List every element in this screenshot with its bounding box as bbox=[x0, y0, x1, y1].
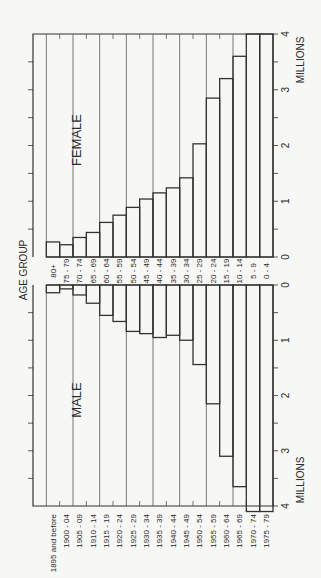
female-bar bbox=[193, 144, 206, 257]
birth-year-label: 1905 - 09 bbox=[75, 513, 84, 547]
age-group-label: 70 - 74 bbox=[75, 258, 84, 283]
male-bar bbox=[220, 285, 233, 456]
male-panel bbox=[28, 285, 278, 512]
birth-year-label: 1900 - 04 bbox=[62, 513, 71, 547]
birth-year-label: 1960 - 64 bbox=[222, 513, 231, 547]
labels-layer: 001122334480+1895 and before75 - 791900 … bbox=[18, 31, 306, 573]
birth-year-label: 1965 - 69 bbox=[235, 513, 244, 547]
female-value-tick-label: 0 bbox=[280, 254, 291, 260]
female-bar bbox=[220, 79, 233, 257]
female-bar bbox=[180, 178, 193, 257]
male-value-tick-label: 0 bbox=[280, 282, 291, 288]
birth-year-label: 1895 and before bbox=[49, 513, 58, 572]
female-bar bbox=[46, 242, 59, 257]
age-group-axis-title: AGE GROUP bbox=[18, 239, 29, 300]
age-group-label: 15 - 19 bbox=[222, 258, 231, 283]
age-group-label: 80+ bbox=[49, 264, 58, 278]
birth-year-label: 1915 - 19 bbox=[102, 513, 111, 547]
male-value-tick-label: 1 bbox=[280, 337, 291, 343]
birth-year-label: 1975 - 79 bbox=[262, 513, 271, 547]
birth-year-label: 1920 - 24 bbox=[115, 513, 124, 547]
male-bar bbox=[60, 285, 73, 289]
female-bar bbox=[233, 56, 246, 257]
male-bar bbox=[153, 285, 166, 337]
male-bar bbox=[126, 285, 139, 331]
male-bar bbox=[193, 285, 206, 365]
age-group-label: 75 - 79 bbox=[62, 258, 71, 283]
birth-year-label: 1910 - 14 bbox=[89, 513, 98, 547]
female-value-tick-label: 1 bbox=[280, 198, 291, 204]
female-panel bbox=[28, 34, 278, 257]
female-value-tick-label: 3 bbox=[280, 87, 291, 93]
male-bar bbox=[206, 285, 219, 404]
female-bar bbox=[100, 222, 113, 257]
female-bar bbox=[206, 98, 219, 257]
male-bar bbox=[180, 285, 193, 340]
age-group-label: 0 - 4 bbox=[262, 262, 271, 279]
female-bar bbox=[73, 237, 86, 257]
female-bar bbox=[126, 207, 139, 257]
male-value-tick-label: 2 bbox=[280, 392, 291, 398]
female-series-label: FEMALE bbox=[69, 114, 84, 166]
male-value-tick-label: 4 bbox=[280, 503, 291, 509]
birth-year-label: 1935 - 39 bbox=[155, 513, 164, 547]
male-bar bbox=[260, 285, 273, 512]
birth-year-label: 1950 - 54 bbox=[195, 513, 204, 547]
male-series-label: MALE bbox=[69, 382, 84, 418]
age-group-label: 65 - 69 bbox=[89, 258, 98, 283]
male-bar bbox=[73, 285, 86, 295]
birth-year-label: 1940 - 44 bbox=[169, 513, 178, 547]
birth-year-label: 1955 - 59 bbox=[209, 513, 218, 547]
age-group-label: 20 - 24 bbox=[209, 258, 218, 283]
male-value-tick-label: 3 bbox=[280, 448, 291, 454]
female-value-axis-title: MILLIONS bbox=[295, 36, 306, 83]
age-group-label: 10 - 14 bbox=[235, 258, 244, 283]
population-pyramid-chart: 001122334480+1895 and before75 - 791900 … bbox=[0, 0, 321, 578]
female-value-tick-label: 2 bbox=[280, 142, 291, 148]
male-bar bbox=[100, 285, 113, 315]
female-bar bbox=[246, 34, 259, 257]
age-group-label: 25 - 29 bbox=[195, 258, 204, 283]
male-value-axis-title: MILLIONS bbox=[295, 456, 306, 503]
age-group-label: 55 - 59 bbox=[115, 258, 124, 283]
age-group-label: 60 - 64 bbox=[102, 258, 111, 283]
female-bar bbox=[86, 232, 99, 257]
male-bar bbox=[113, 285, 126, 321]
male-bar bbox=[233, 285, 246, 487]
age-group-label: 45 - 49 bbox=[142, 258, 151, 283]
male-bar bbox=[46, 285, 59, 293]
female-bar bbox=[140, 199, 153, 257]
male-bar bbox=[246, 285, 259, 512]
age-group-label: 35 - 39 bbox=[169, 258, 178, 283]
female-value-tick-label: 4 bbox=[280, 31, 291, 37]
female-bar bbox=[113, 215, 126, 257]
age-group-label: 5 - 9 bbox=[249, 262, 258, 279]
female-bar bbox=[166, 188, 179, 257]
male-bar bbox=[86, 285, 99, 303]
age-group-label: 30 - 34 bbox=[182, 258, 191, 283]
birth-year-label: 1925 - 29 bbox=[129, 513, 138, 547]
female-bar bbox=[260, 34, 273, 257]
age-group-label: 40 - 44 bbox=[155, 258, 164, 283]
female-bar bbox=[153, 193, 166, 257]
birth-year-label: 1930 - 34 bbox=[142, 513, 151, 547]
male-bar bbox=[166, 285, 179, 335]
age-group-label: 50 - 54 bbox=[129, 258, 138, 283]
male-bar bbox=[140, 285, 153, 334]
birth-year-label: 1945 - 49 bbox=[182, 513, 191, 547]
birth-year-label: 1970 - 74 bbox=[249, 513, 258, 547]
female-bar bbox=[60, 245, 73, 257]
